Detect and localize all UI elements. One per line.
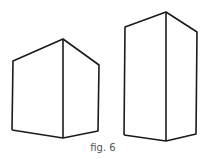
figure-caption: fig. 6 <box>0 142 206 153</box>
short-box-drawing <box>12 39 99 138</box>
tall-box-drawing <box>124 12 197 141</box>
